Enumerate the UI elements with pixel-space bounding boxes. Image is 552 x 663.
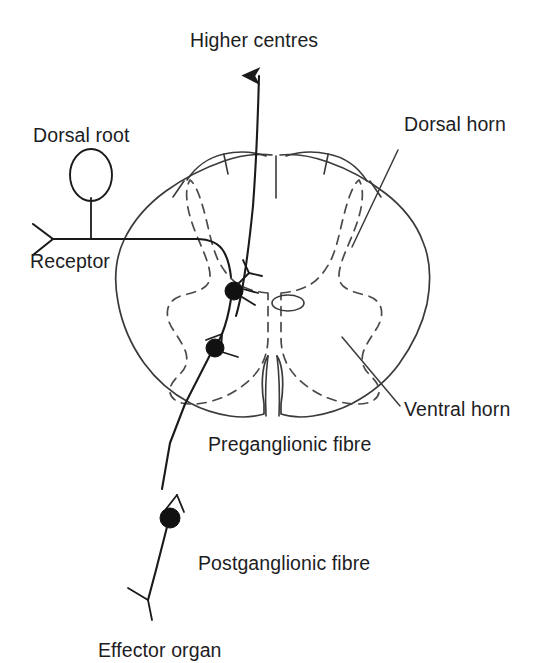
ventral-median-fissure	[266, 356, 280, 416]
effector-terminal-icon	[128, 588, 152, 620]
preganglionic-neuron	[162, 339, 238, 489]
label-dorsal-horn: Dorsal horn	[404, 115, 506, 135]
autonomic-ganglion-soma	[160, 508, 180, 528]
ascending-tract-to-higher-centres	[236, 76, 259, 316]
preganglionic-soma	[206, 339, 224, 357]
label-higher-centres: Higher centres	[190, 31, 318, 51]
label-ventral-horn: Ventral horn	[404, 400, 510, 420]
grey-matter-right	[281, 180, 382, 404]
anatomical-diagram: Higher centres Dorsal root Dorsal horn R…	[0, 0, 552, 663]
dorsal-root-ganglion	[70, 149, 112, 239]
label-postganglionic-fibre: Postganglionic fibre	[198, 554, 370, 574]
label-dorsal-root: Dorsal root	[33, 126, 129, 146]
interneuron-soma	[225, 282, 243, 300]
label-effector-organ: Effector organ	[98, 641, 222, 661]
autonomic-ganglion	[148, 495, 184, 600]
interneuron	[206, 260, 262, 352]
spinal-cord-outline	[116, 154, 430, 417]
dorsal-surface-scallops	[173, 152, 381, 197]
ventral-horn-leader	[342, 337, 400, 406]
central-canal	[272, 295, 304, 311]
label-preganglionic-fibre: Preganglionic fibre	[208, 435, 371, 455]
label-receptor: Receptor	[30, 252, 110, 272]
